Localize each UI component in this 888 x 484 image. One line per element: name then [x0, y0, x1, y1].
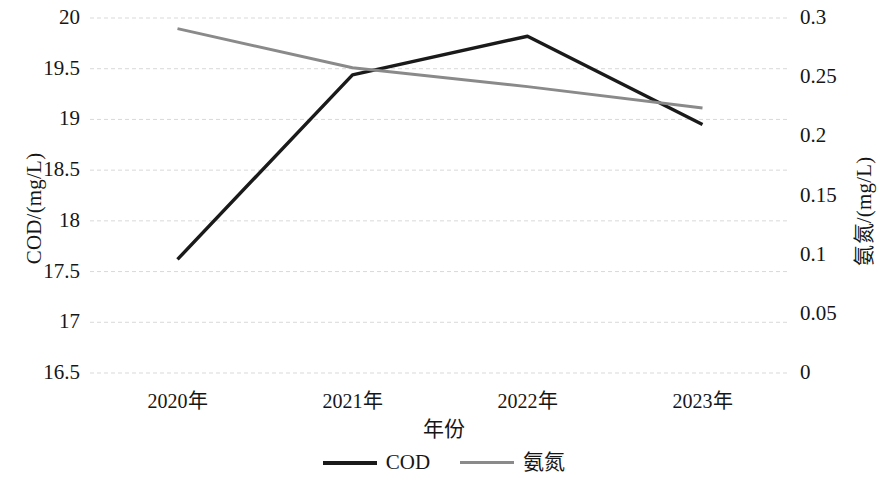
- y-axis-left-tick-label: 18.5: [0, 157, 80, 182]
- chart-legend: COD氨氮: [0, 452, 888, 473]
- x-axis-tick-label: 2022年: [468, 385, 588, 414]
- x-axis-title: 年份: [0, 412, 888, 442]
- y-axis-left-tick-label: 17: [0, 309, 80, 334]
- y-axis-left-tick-label: 18: [0, 208, 80, 233]
- y-axis-right-tick-label: 0.1: [800, 242, 880, 267]
- y-axis-left-tick-label: 19.5: [0, 56, 80, 81]
- series-lines: [178, 29, 703, 260]
- y-axis-left-tick-label: 19: [0, 106, 80, 131]
- gridlines: [90, 18, 790, 373]
- y-axis-right-tick-label: 0.2: [800, 123, 880, 148]
- legend-item[interactable]: COD: [323, 452, 430, 473]
- y-axis-right-tick-label: 0.05: [800, 301, 880, 326]
- x-axis-tick-label: 2021年: [293, 385, 413, 414]
- legend-item[interactable]: 氨氮: [460, 452, 565, 473]
- x-axis-tick-label: 2023年: [643, 385, 763, 414]
- y-axis-right-tick-label: 0.25: [800, 64, 880, 89]
- legend-line-icon: [460, 461, 514, 464]
- legend-label: 氨氮: [523, 452, 565, 473]
- legend-line-icon: [323, 461, 377, 465]
- line-chart: COD/(mg/L) 氨氮/(mg/L) 年份 2019.51918.51817…: [0, 0, 888, 484]
- y-axis-right-tick-label: 0.3: [800, 5, 880, 30]
- series-line-COD: [178, 36, 703, 259]
- y-axis-left-tick-label: 20: [0, 5, 80, 30]
- legend-label: COD: [386, 452, 430, 473]
- y-axis-right-tick-label: 0.15: [800, 183, 880, 208]
- x-axis-tick-label: 2020年: [118, 385, 238, 414]
- y-axis-left-tick-label: 16.5: [0, 360, 80, 385]
- y-axis-right-tick-label: 0: [800, 360, 880, 385]
- y-axis-left-tick-label: 17.5: [0, 259, 80, 284]
